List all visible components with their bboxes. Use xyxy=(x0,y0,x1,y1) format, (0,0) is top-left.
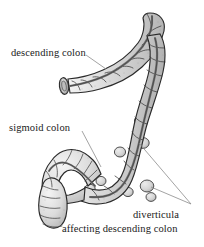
label-diverticula: diverticula xyxy=(133,209,179,221)
colon-diverticula-figure: descending colon sigmoid colon diverticu… xyxy=(0,0,204,247)
diverticula-leader-lower xyxy=(151,187,191,204)
descending-colon-leader xyxy=(86,55,106,69)
label-descending-colon: descending colon xyxy=(11,47,86,59)
label-affecting-descending-colon: affecting descending colon xyxy=(62,223,178,235)
label-sigmoid-colon: sigmoid colon xyxy=(9,122,70,134)
